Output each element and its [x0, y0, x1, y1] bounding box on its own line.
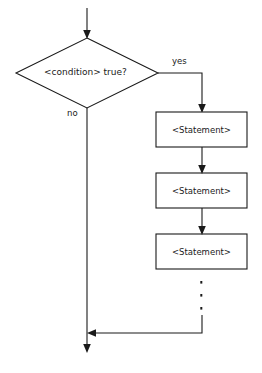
no-branch-connector: [83, 108, 91, 353]
statement-box-1-label: <Statement>: [172, 126, 231, 135]
no-branch-label: no: [67, 109, 78, 118]
statement-box-2-label: <Statement>: [172, 187, 231, 196]
statement-connector-2-3: [198, 208, 206, 235]
statement-connector-1-2: [198, 147, 206, 174]
flowchart-canvas: <condition> true? yes no <Statement> <St…: [0, 0, 262, 373]
vertical-ellipsis-icon: [200, 281, 202, 310]
yes-branch-label: yes: [172, 57, 187, 66]
statement-box-3-label: <Statement>: [172, 248, 231, 257]
yes-branch-connector: [158, 73, 206, 113]
decision-label: <condition> true?: [44, 68, 127, 77]
entry-arrow: [83, 8, 91, 39]
loopback-connector: [87, 315, 202, 337]
